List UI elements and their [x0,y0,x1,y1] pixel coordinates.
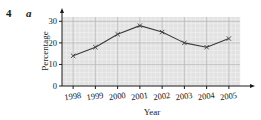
x-axis-ticks: 19981999200020012002200320042005 [64,86,238,102]
y-axis-label: Percentage [40,31,50,70]
x-tick-label: 2002 [153,90,171,102]
figure-page: 4 a 0102030 1998199920002001200220032004… [0,0,261,120]
x-tick-label: 2003 [175,90,193,102]
x-tick-label: 2005 [219,90,237,102]
chart-svg: 0102030 19981999200020012002200320042005… [0,0,261,120]
y-tick-label: 30 [49,16,58,26]
line-chart-figure: 0102030 19981999200020012002200320042005… [0,0,261,120]
x-tick-label: 2000 [108,90,126,102]
chart-gridlines-minor [62,17,240,86]
y-tick-label: 0 [53,81,57,91]
x-tick-label: 1999 [86,90,104,102]
x-tick-label: 2004 [197,90,216,102]
x-tick-label: 2001 [130,90,148,102]
y-axis-ticks: 0102030 [49,16,63,91]
x-axis-label: Year [144,107,161,117]
x-tick-label: 1998 [64,90,82,102]
